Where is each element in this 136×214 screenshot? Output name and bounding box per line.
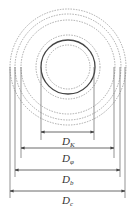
outer-dashed-circle-b xyxy=(15,14,121,120)
diagram-canvas: DK Dφ Db Dc xyxy=(0,0,136,214)
mid-dashed-circle xyxy=(36,35,100,99)
label-dk: DK xyxy=(61,135,75,149)
outer-dashed-circle-c xyxy=(10,9,126,125)
label-db: Db xyxy=(61,173,74,187)
label-dc: Dc xyxy=(61,194,74,208)
inner-dashed-circle xyxy=(46,45,90,89)
label-dp: Dφ xyxy=(61,152,74,166)
diameter-diagram: DK Dφ Db Dc xyxy=(0,0,136,214)
solid-circle-k xyxy=(41,40,95,94)
outer-dashed-circle-p xyxy=(21,20,115,114)
